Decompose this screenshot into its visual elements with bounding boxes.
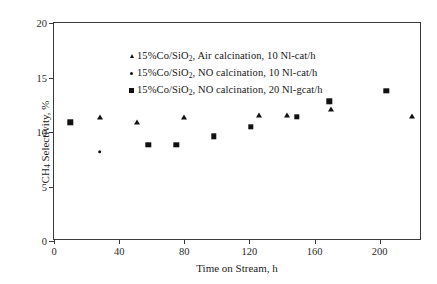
legend-label: 15%Co/SiO2, NO calcination, 20 Nl-gcat/h	[137, 84, 323, 97]
legend: 15%Co/SiO2, Air calcination, 10 Nl-cat/h…	[126, 50, 323, 97]
y-tick-mark	[49, 78, 54, 79]
data-point	[97, 114, 103, 119]
data-point	[134, 120, 140, 125]
chart-figure: CH4 Selectivity, % 05101520 040801201602…	[0, 0, 437, 284]
data-point	[98, 150, 102, 154]
legend-item: 15%Co/SiO2, NO calcination, 20 Nl-gcat/h	[126, 84, 323, 97]
data-point	[68, 119, 73, 124]
y-tick-label: 0	[42, 236, 47, 247]
y-tick-mark	[49, 187, 54, 188]
x-tick-mark	[184, 239, 185, 244]
legend-label: 15%Co/SiO2, NO calcination, 10 Nl-cat/h	[137, 67, 317, 80]
data-point	[294, 114, 299, 119]
circle-marker-icon	[126, 72, 137, 75]
data-point	[256, 112, 262, 117]
x-axis-title: Time on Stream, h	[53, 262, 421, 274]
legend-item: 15%Co/SiO2, NO calcination, 10 Nl-cat/h	[126, 67, 323, 80]
x-tick-mark	[249, 239, 250, 244]
x-tick-label: 200	[372, 246, 388, 257]
x-tick-mark	[119, 239, 120, 244]
data-point	[383, 88, 388, 93]
y-tick-label: 20	[37, 18, 48, 29]
data-point	[328, 107, 334, 112]
y-axis-title: CH4 Selectivity, %	[39, 101, 53, 184]
data-point	[409, 113, 415, 118]
y-tick-mark	[49, 132, 54, 133]
data-point	[181, 114, 187, 119]
y-tick-label: 10	[37, 127, 48, 138]
x-tick-label: 160	[307, 246, 323, 257]
x-tick-mark	[315, 239, 316, 244]
data-point	[146, 142, 151, 147]
x-tick-label: 40	[114, 246, 125, 257]
legend-item: 15%Co/SiO2, Air calcination, 10 Nl-cat/h	[126, 50, 323, 63]
data-point	[173, 142, 178, 147]
x-tick-label: 0	[51, 246, 56, 257]
x-tick-mark	[380, 239, 381, 244]
data-point	[211, 134, 216, 139]
y-tick-label: 5	[42, 181, 47, 192]
data-point	[284, 112, 290, 117]
x-tick-mark	[54, 239, 55, 244]
triangle-marker-icon	[126, 54, 137, 58]
legend-label: 15%Co/SiO2, Air calcination, 10 Nl-cat/h	[137, 50, 316, 63]
square-marker-icon	[126, 88, 137, 93]
data-point	[248, 124, 253, 129]
data-point	[326, 99, 331, 104]
x-tick-label: 80	[179, 246, 190, 257]
plot-area: 05101520 04080120160200 15%Co/SiO2, Air …	[53, 22, 421, 240]
y-tick-label: 15	[37, 72, 48, 83]
y-tick-mark	[49, 23, 54, 24]
x-tick-label: 120	[242, 246, 258, 257]
